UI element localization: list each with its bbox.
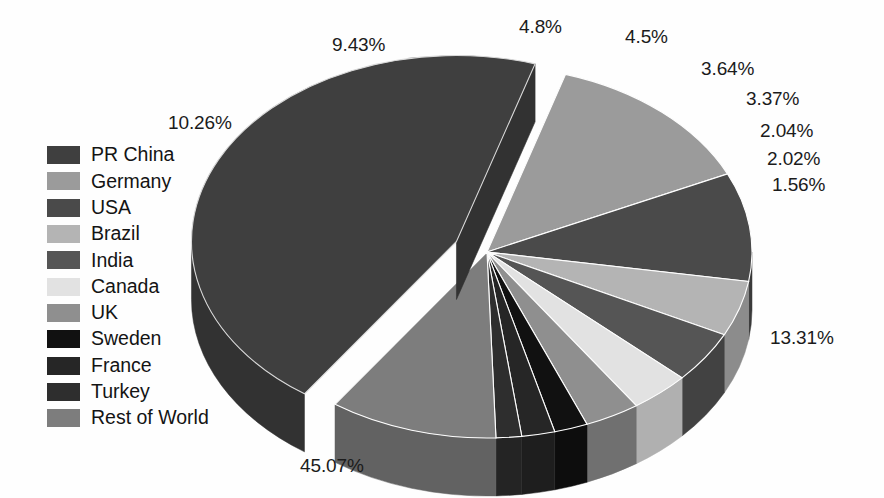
- legend-item: France: [47, 352, 247, 378]
- legend-swatch-icon: [47, 172, 80, 190]
- legend-swatch-icon: [47, 383, 80, 401]
- legend-swatch-icon: [47, 199, 80, 217]
- legend-label: UK: [91, 303, 118, 323]
- pie-slice-wall: [555, 424, 587, 490]
- legend-swatch-icon: [47, 304, 80, 322]
- legend-label: Canada: [91, 277, 159, 297]
- legend-item: PR China: [47, 142, 247, 168]
- legend-label: France: [91, 356, 152, 376]
- legend-label: USA: [91, 198, 131, 218]
- legend-item: Canada: [47, 273, 247, 299]
- legend-swatch-icon: [47, 409, 80, 427]
- legend-label: Germany: [91, 172, 171, 192]
- legend-swatch-icon: [47, 330, 80, 348]
- legend-label: Rest of World: [91, 408, 209, 428]
- label-canada: 3.64%: [701, 58, 754, 80]
- legend-label: Turkey: [91, 382, 150, 402]
- legend-item: Germany: [47, 168, 247, 194]
- pie-slice-wall: [496, 436, 522, 496]
- legend-item: Sweden: [47, 326, 247, 352]
- label-india: 4.5%: [625, 26, 668, 48]
- legend-label: PR China: [91, 145, 174, 165]
- label-brazil: 4.8%: [519, 16, 562, 38]
- legend-label: Sweden: [91, 329, 161, 349]
- legend-item: Rest of World: [47, 405, 247, 431]
- legend-label: India: [91, 251, 133, 271]
- legend-swatch-icon: [47, 251, 80, 269]
- legend-swatch-icon: [47, 357, 80, 375]
- legend-item: India: [47, 247, 247, 273]
- label-sweden: 2.04%: [760, 120, 813, 142]
- pie-slice-wall: [522, 432, 555, 495]
- pie-chart: PR ChinaGermanyUSABrazilIndiaCanadaUKSwe…: [0, 0, 884, 498]
- label-france: 2.02%: [767, 148, 820, 170]
- label-rest-of-world: 10.26%: [168, 112, 232, 134]
- legend-swatch-icon: [47, 278, 80, 296]
- legend-swatch-icon: [47, 146, 80, 164]
- legend-item: USA: [47, 195, 247, 221]
- legend-item: Brazil: [47, 221, 247, 247]
- label-germany: 13.31%: [770, 327, 834, 349]
- label-turkey: 1.56%: [772, 174, 825, 196]
- legend-item: UK: [47, 300, 247, 326]
- chart-legend: PR ChinaGermanyUSABrazilIndiaCanadaUKSwe…: [47, 142, 247, 431]
- legend-swatch-icon: [47, 225, 80, 243]
- legend-label: Brazil: [91, 224, 140, 244]
- label-pr-china: 45.07%: [300, 455, 364, 477]
- label-uk: 3.37%: [746, 88, 799, 110]
- legend-item: Turkey: [47, 379, 247, 405]
- label-usa: 9.43%: [332, 34, 385, 56]
